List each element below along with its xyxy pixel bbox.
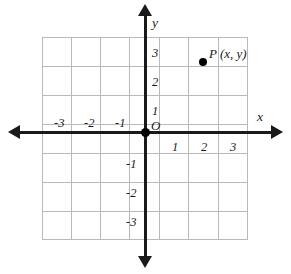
origin-label: O — [151, 119, 160, 132]
y-tick-label-3: 3 — [152, 47, 158, 60]
grid-line-vertical — [100, 37, 101, 240]
x-tick-label-neg3: -3 — [54, 117, 64, 130]
grid-line-vertical — [218, 37, 219, 240]
arrow-down-icon — [138, 256, 152, 268]
grid-line-vertical — [42, 37, 43, 240]
origin-point — [141, 128, 150, 137]
y-tick-label-neg2: -2 — [126, 187, 136, 200]
grid-line-vertical — [159, 37, 160, 240]
grid-line-vertical — [188, 37, 189, 240]
grid-line-vertical — [247, 37, 248, 240]
y-tick-label-2: 2 — [152, 76, 158, 89]
point-p-label: P (x, y) — [209, 47, 247, 60]
x-tick-label-3: 3 — [230, 141, 236, 154]
arrow-right-icon — [271, 125, 283, 139]
x-tick-label-2: 2 — [201, 141, 207, 154]
grid-line-vertical — [129, 37, 130, 240]
coordinate-plane-figure: x y O -3 -2 -1 1 2 3 3 2 1 -1 -2 -3 P (x… — [0, 0, 291, 274]
y-tick-label-1: 1 — [152, 105, 158, 118]
x-tick-label-1: 1 — [172, 141, 178, 154]
x-axis-label: x — [257, 110, 263, 124]
x-tick-label-neg1: -1 — [115, 117, 125, 130]
y-tick-label-neg3: -3 — [126, 216, 136, 229]
y-tick-label-neg1: -1 — [126, 158, 136, 171]
x-tick-label-neg2: -2 — [84, 117, 94, 130]
grid-line-vertical — [71, 37, 72, 240]
y-axis-label: y — [152, 16, 158, 30]
arrow-left-icon — [8, 125, 20, 139]
point-p — [199, 58, 207, 66]
arrow-up-icon — [138, 4, 152, 16]
